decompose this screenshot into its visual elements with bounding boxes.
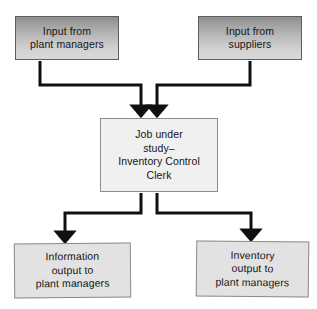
edge-plant-managers-to-job [40,61,141,108]
node-inventory-output[interactable]: Inventory output to plant managers [196,240,310,297]
node-label-line: output to [52,264,94,278]
node-label-line: output to [232,262,274,276]
node-information-output[interactable]: Information output to plant managers [14,242,131,298]
edge-suppliers-to-job [157,61,250,108]
node-label-line: plant managers [30,38,104,52]
node-label-line: study– [143,142,175,156]
flowchart-diagram: Input from plant managers Input from sup… [0,0,317,309]
node-label-line: Job under [135,128,183,142]
node-label-line: plant managers [36,277,110,291]
node-input-suppliers[interactable]: Input from suppliers [198,16,302,60]
node-label-line: plant managers [215,275,289,289]
node-label-line: suppliers [229,38,272,52]
node-label-line: Inventory Control [118,155,200,169]
node-job-under-study[interactable]: Job under study– Inventory Control Clerk [100,118,218,192]
node-label-line: Input from [43,25,91,39]
node-input-plant-managers[interactable]: Input from plant managers [15,16,119,60]
node-label-line: Inventory [231,249,275,263]
node-label-line: Information [45,250,99,264]
edge-job-to-inventory [157,193,251,232]
edge-job-to-information [65,193,141,234]
node-label-line: Input from [226,25,274,39]
node-label-line: Clerk [146,169,171,183]
